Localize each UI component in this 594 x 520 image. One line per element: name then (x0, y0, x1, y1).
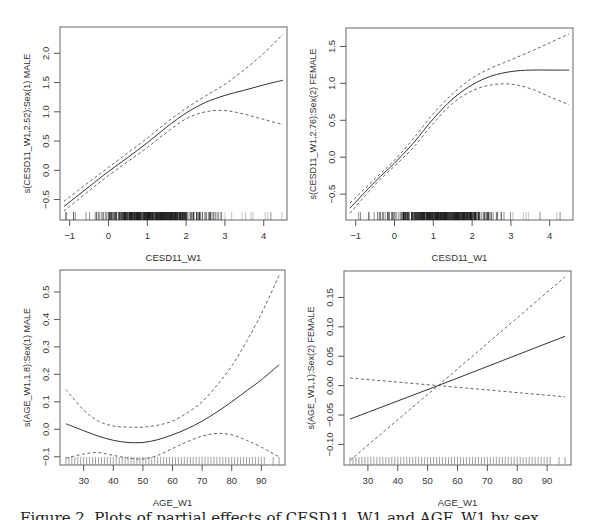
x-tick-label: 0 (392, 230, 397, 241)
x-tick-label: 70 (197, 475, 208, 486)
x-tick-label: 40 (108, 475, 119, 486)
y-tick-label: 1.5 (40, 76, 51, 89)
figure: −101234CESD11_W1−0.50.00.51.01.52.0s(CES… (0, 0, 594, 520)
x-tick-label: 90 (542, 475, 553, 486)
upper-ci-line (350, 34, 569, 203)
x-tick-label: 3 (222, 230, 227, 241)
x-axis-label: CESD11_W1 (146, 252, 202, 263)
y-tick-label: 0.00 (324, 376, 335, 395)
x-tick-label: 2 (183, 230, 188, 241)
y-tick-label: 0.0 (40, 164, 51, 177)
panel-cesd-female: −101234CESD11_W1−0.50.00.51.01.5s(CESD11… (308, 28, 573, 263)
rug-ticks (66, 457, 279, 465)
y-tick-label: 0.10 (324, 318, 335, 337)
y-tick-label: 0.2 (40, 368, 51, 381)
x-tick-label: 70 (482, 475, 493, 486)
x-tick-label: 50 (138, 475, 149, 486)
rug-ticks (65, 212, 282, 220)
plot-area (60, 27, 287, 220)
smooth-fit-line (350, 70, 569, 208)
x-tick-label: 30 (363, 475, 374, 486)
panel-cesd-male: −101234CESD11_W1−0.50.00.51.01.52.0s(CES… (22, 27, 287, 263)
x-tick-label: 40 (392, 475, 403, 486)
x-tick-label: −1 (64, 230, 75, 241)
y-tick-label: 0.05 (324, 347, 335, 366)
upper-ci-line (64, 34, 283, 201)
x-tick-label: 0 (106, 230, 111, 241)
x-tick-label: 90 (256, 475, 267, 486)
lower-ci-line (64, 110, 283, 211)
x-axis: −101234 (350, 220, 552, 241)
panel-age-male: 30405060708090AGE_W1−0.10.00.10.20.30.40… (22, 270, 285, 508)
y-tick-label: −0.1 (40, 447, 51, 466)
x-tick-label: 2 (469, 230, 474, 241)
x-tick-label: −1 (350, 230, 361, 241)
y-axis-label: s(CESD11_W1,2.52):Sex(1) MALE (22, 54, 32, 193)
y-tick-label: −0.5 (326, 185, 337, 204)
lower-ci-line (350, 84, 569, 214)
rug-ticks (350, 457, 565, 465)
y-axis-label: s(AGE_W1,1):Sex(2) FEMALE (306, 306, 316, 429)
y-tick-label: 1.0 (40, 105, 51, 118)
panel-age-female: 30405060708090AGE_W1−0.10−0.050.000.050.… (306, 271, 571, 508)
plot-area (344, 271, 571, 465)
x-axis: 30405060708090 (78, 465, 266, 486)
y-tick-label: −0.05 (324, 403, 335, 427)
x-tick-label: 3 (508, 230, 513, 241)
x-axis-label: AGE_W1 (438, 497, 478, 508)
x-tick-label: 60 (167, 475, 178, 486)
y-tick-label: 0.15 (324, 288, 335, 307)
x-axis: −101234 (64, 220, 266, 241)
y-tick-label: 0.3 (40, 340, 51, 353)
y-tick-label: −0.5 (40, 190, 51, 209)
y-axis: −0.10.00.10.20.30.40.5 (40, 285, 60, 466)
plot-area (346, 28, 573, 220)
x-tick-label: 60 (452, 475, 463, 486)
rug-ticks (359, 212, 560, 220)
x-tick-label: 30 (78, 475, 89, 486)
upper-ci-line (66, 276, 279, 428)
y-tick-label: 0.0 (326, 151, 337, 164)
figure-caption: Figure 2. Plots of partial effects of CE… (20, 508, 590, 520)
y-axis-label: s(AGE_W1,1.8):Sex(1) MALE (22, 308, 32, 427)
x-tick-label: 4 (547, 230, 552, 241)
x-tick-label: 4 (261, 230, 266, 241)
y-tick-label: −0.10 (324, 432, 335, 456)
x-tick-label: 50 (422, 475, 433, 486)
smooth-fit-line (350, 336, 565, 419)
y-tick-label: 2.0 (40, 47, 51, 60)
x-tick-label: 80 (512, 475, 523, 486)
x-axis-label: CESD11_W1 (432, 252, 488, 263)
x-tick-label: 1 (145, 230, 150, 241)
lower-ci-line (350, 378, 565, 397)
y-axis: −0.50.00.51.01.5 (326, 40, 346, 204)
smooth-fit-line (64, 80, 283, 206)
y-tick-label: 1.0 (326, 77, 337, 90)
y-axis-label: s(CESD11_W1,2.76):Sex(2) FEMALE (308, 49, 318, 200)
lower-ci-line (66, 433, 279, 459)
x-axis: 30405060708090 (363, 465, 553, 486)
smooth-fit-line (66, 365, 279, 443)
y-axis: −0.10−0.050.000.050.100.15 (324, 288, 344, 456)
x-tick-label: 80 (226, 475, 237, 486)
y-tick-label: 0.5 (40, 134, 51, 147)
y-axis: −0.50.00.51.01.52.0 (40, 47, 60, 209)
y-tick-label: 0.1 (40, 395, 51, 408)
y-tick-label: 1.5 (326, 40, 337, 53)
y-tick-label: 0.4 (40, 313, 51, 326)
x-axis-label: AGE_W1 (153, 497, 193, 508)
upper-ci-line (350, 277, 565, 460)
y-tick-label: 0.5 (326, 114, 337, 127)
plot-area (60, 270, 285, 465)
y-tick-label: 0.5 (40, 285, 51, 298)
x-tick-label: 1 (431, 230, 436, 241)
y-tick-label: 0.0 (40, 423, 51, 436)
